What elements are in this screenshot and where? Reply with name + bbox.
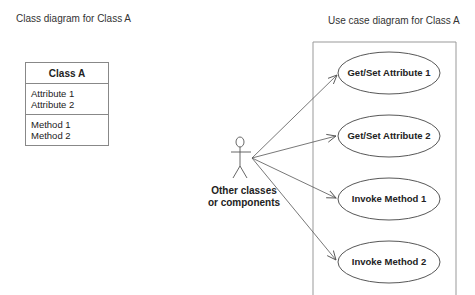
actor-label-line-2: or components xyxy=(205,197,283,209)
use-case-diagram-graphics xyxy=(0,0,475,295)
actor-label-line-1: Other classes xyxy=(205,185,283,197)
use-case-label-1: Get/Set Attribute 1 xyxy=(337,67,441,78)
use-case-label-4: Invoke Method 2 xyxy=(337,256,441,267)
association-2 xyxy=(252,136,336,158)
use-case-label-3: Invoke Method 1 xyxy=(337,193,441,204)
actor-icon xyxy=(231,137,251,178)
actor-label: Other classes or components xyxy=(205,185,283,209)
association-4 xyxy=(252,158,336,260)
association-1 xyxy=(252,75,337,158)
use-case-label-2: Get/Set Attribute 2 xyxy=(337,130,441,141)
